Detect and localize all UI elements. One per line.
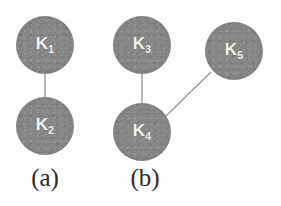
node-k4: K4 [113,103,171,161]
node-k4-label: K4 [133,122,151,142]
node-k3-label: K3 [133,35,151,55]
node-k3: K3 [113,16,171,74]
node-k1-label: K1 [36,35,54,55]
node-k1: K1 [16,16,74,74]
caption-panel-a: (a) [20,165,70,190]
node-k5-label: K5 [225,41,243,61]
graph-figure: K1 K2 K3 K4 K5 (a) (b) [0,0,281,206]
node-k2-label: K2 [36,116,54,136]
node-k5: K5 [205,22,263,80]
caption-panel-b: (b) [120,165,170,190]
edge-k4-k5 [166,72,211,116]
node-k2: K2 [16,97,74,155]
